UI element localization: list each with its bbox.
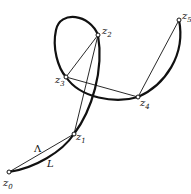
chord-z4-z5	[138, 20, 179, 97]
curve-diagram: z0 z1 z2 z3 z4 z5 Λ L	[0, 0, 191, 194]
chord-z0-z1	[9, 134, 74, 172]
label-z0: z0	[2, 177, 13, 191]
label-z1: z1	[75, 131, 86, 145]
point-z2	[96, 33, 100, 37]
label-z2: z2	[101, 25, 112, 39]
label-z4: z4	[139, 97, 150, 111]
curve-z2-z3-loop	[55, 17, 98, 77]
label-z3: z3	[54, 74, 65, 88]
label-chord-lambda: Λ	[33, 143, 42, 154]
label-arc-L: L	[46, 158, 54, 169]
label-z5: z5	[181, 10, 191, 24]
point-z5	[177, 18, 181, 22]
point-z3	[64, 75, 68, 79]
point-z0	[7, 170, 11, 174]
